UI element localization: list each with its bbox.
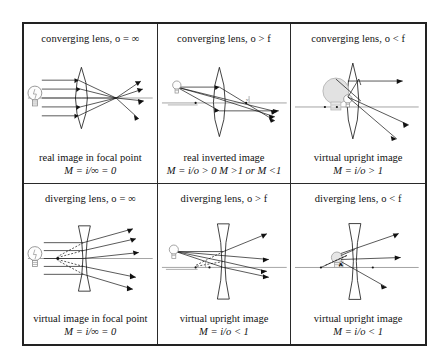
ray-diagram-diverging-within-f: A xyxy=(291,205,425,312)
principal-rays xyxy=(176,87,278,121)
cell-title: diverging lens, o > f xyxy=(181,193,268,205)
cell-title: converging lens, o < f xyxy=(311,33,405,45)
inverted-image-marker: v xyxy=(246,96,249,103)
caption-line-1: virtual upright image xyxy=(291,151,425,164)
cell-title: converging lens, o > f xyxy=(177,33,271,45)
caption-line-2: M = i/o < 1 xyxy=(291,325,425,338)
caption-line-1: virtual image in focal point xyxy=(24,312,157,325)
cell-title: diverging lens, o < f xyxy=(315,193,402,205)
caption-line-2: M = i/∞ = 0 xyxy=(24,325,157,338)
ray-arrowheads xyxy=(391,79,409,141)
virtual-focal-point xyxy=(56,257,59,260)
caption-line-1: real inverted image xyxy=(158,151,291,164)
converging-lens-shape xyxy=(213,67,225,136)
incoming-parallel-rays xyxy=(44,243,84,275)
cell-caption: virtual upright image M = i/o < 1 xyxy=(291,312,425,338)
diverging-lens-shape xyxy=(349,224,361,300)
cell-caption: real image in focal point M = i/∞ = 0 xyxy=(24,151,157,177)
cell-converging-within-f: converging lens, o < f xyxy=(291,24,425,184)
caption-line-1: virtual upright image xyxy=(291,312,425,325)
ray-diagram-converging-within-f xyxy=(291,45,425,151)
ray-diagram-converging-beyond-f: v xyxy=(158,45,291,151)
lens-ray-diagram-table: converging lens, o = ∞ xyxy=(22,22,427,346)
ray-diagram-converging-infinite xyxy=(24,45,157,151)
principal-rays xyxy=(175,234,268,278)
refracted-converging-rays xyxy=(78,80,116,116)
caption-line-2: M = i/o > 1 xyxy=(291,164,425,177)
cell-diverging-beyond-f: diverging lens, o > f xyxy=(158,184,292,344)
ray-diagram-diverging-infinite xyxy=(24,205,157,312)
light-bulb-object xyxy=(169,245,178,258)
ray-arrowheads xyxy=(127,229,139,291)
cell-converging-infinite: converging lens, o = ∞ xyxy=(24,24,158,184)
cell-title: diverging lens, o = ∞ xyxy=(45,193,136,205)
cell-converging-beyond-f: converging lens, o > f xyxy=(158,24,292,184)
caption-line-2: M = i/o < 1 xyxy=(158,325,291,338)
cell-diverging-within-f: diverging lens, o < f A xyxy=(291,184,425,344)
light-bulb-object xyxy=(28,86,42,106)
caption-line-1: virtual upright image xyxy=(158,312,291,325)
caption-line-2: M = i/o > 0 M >1 or M <1 xyxy=(158,164,291,177)
cell-title: converging lens, o = ∞ xyxy=(41,33,139,45)
svg-text:A: A xyxy=(339,262,343,267)
cell-caption: virtual upright image M = i/o < 1 xyxy=(158,312,291,338)
caption-line-2: M = i/∞ = 0 xyxy=(24,164,157,177)
light-bulb-object xyxy=(28,247,42,267)
cell-caption: virtual image in focal point M = i/∞ = 0 xyxy=(24,312,157,338)
ray-arrowheads xyxy=(261,234,269,280)
ray-diagram-diverging-beyond-f xyxy=(158,205,291,312)
virtual-image-bulb xyxy=(323,78,349,110)
cell-diverging-infinite: diverging lens, o = ∞ xyxy=(24,184,158,344)
light-bulb-object xyxy=(172,81,180,93)
cell-caption: virtual upright image M = i/o > 1 xyxy=(291,151,425,177)
svg-text:v: v xyxy=(246,97,249,102)
cell-caption: real inverted image M = i/o > 0 M >1 or … xyxy=(158,151,291,177)
incoming-parallel-rays xyxy=(42,80,82,116)
ray-arrowheads xyxy=(381,234,401,290)
caption-line-1: real image in focal point xyxy=(24,151,157,164)
